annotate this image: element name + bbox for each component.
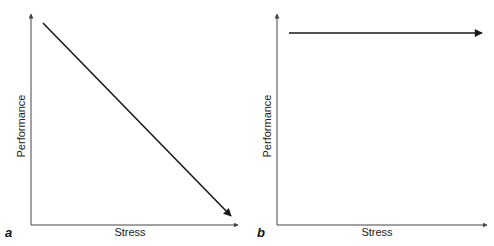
panel-a: Stress Performance a	[5, 14, 238, 240]
figure-canvas: Stress Performance a Stress Performance …	[0, 0, 494, 246]
panel-label-a: a	[5, 225, 12, 240]
y-axis-label-b: Performance	[261, 95, 273, 158]
trend-arrow-a	[43, 23, 231, 216]
panel-label-b: b	[257, 225, 265, 240]
y-axis-label-a: Performance	[15, 95, 27, 158]
panel-b: Stress Performance b	[257, 14, 487, 240]
x-axis-label-b: Stress	[361, 226, 393, 238]
x-axis-label-a: Stress	[114, 226, 146, 238]
